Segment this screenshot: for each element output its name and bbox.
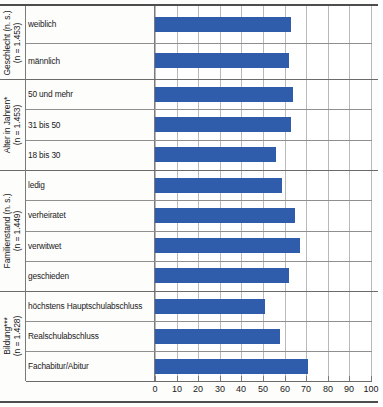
gridline-70 bbox=[306, 6, 307, 381]
plot-area bbox=[155, 6, 371, 381]
bar bbox=[155, 359, 308, 374]
group-name: Alter in Jahren* bbox=[2, 96, 12, 153]
category-label: verheiratet bbox=[28, 210, 66, 220]
x-tick-mark-20 bbox=[198, 376, 199, 381]
category-label: verwitwet bbox=[28, 241, 61, 251]
group-name: Bildung*** bbox=[2, 316, 12, 356]
group-sample-size: (n = 1.449) bbox=[12, 193, 22, 268]
bar bbox=[155, 329, 280, 344]
group-name: Familienstand (n. s.) bbox=[2, 193, 12, 268]
x-tick-mark-10 bbox=[177, 376, 178, 381]
category-label: Fachabitur/Abitur bbox=[28, 361, 89, 371]
x-axis-line bbox=[26, 381, 372, 382]
row-separator bbox=[26, 43, 372, 44]
x-tick-mark-80 bbox=[328, 376, 329, 381]
bar bbox=[155, 268, 289, 283]
category-label: 18 bis 30 bbox=[28, 150, 60, 160]
category-label: höchstens Hauptschulabschluss bbox=[28, 301, 142, 311]
x-tick-mark-90 bbox=[349, 376, 350, 381]
bar bbox=[155, 208, 295, 223]
bar bbox=[155, 178, 282, 193]
row-separator bbox=[26, 140, 372, 141]
row-separator bbox=[26, 109, 372, 110]
x-tick-mark-70 bbox=[306, 376, 307, 381]
group-separator bbox=[0, 170, 378, 171]
gridline-90 bbox=[349, 6, 350, 381]
category-label: Realschulabschluss bbox=[28, 331, 99, 341]
group-name: Geschlecht (n. s.) bbox=[2, 10, 12, 75]
bar bbox=[155, 17, 291, 32]
gridline-80 bbox=[328, 6, 329, 381]
row-separator bbox=[26, 321, 372, 322]
chart-bottom-border bbox=[0, 401, 378, 403]
x-tick-mark-60 bbox=[285, 376, 286, 381]
row-separator bbox=[26, 351, 372, 352]
category-label: 50 und mehr bbox=[28, 89, 73, 99]
row-separator bbox=[26, 231, 372, 232]
bar bbox=[155, 299, 265, 314]
category-label: männlich bbox=[28, 56, 60, 66]
x-tick-label: 20 bbox=[186, 384, 210, 395]
group-separator bbox=[0, 79, 378, 80]
x-tick-label: 100 bbox=[359, 384, 383, 395]
group-axis-label-3: Bildung***(n = 1.428) bbox=[0, 291, 24, 381]
x-tick-label: 0 bbox=[143, 384, 167, 395]
group-divider-rule-3 bbox=[25, 291, 26, 381]
group-sample-size: (n = 1.453) bbox=[12, 10, 22, 75]
group-divider-rule-1 bbox=[25, 79, 26, 170]
group-axis-label-2: Familienstand (n. s.)(n = 1.449) bbox=[0, 170, 24, 291]
bar bbox=[155, 117, 291, 132]
x-tick-label: 70 bbox=[294, 384, 318, 395]
x-tick-mark-40 bbox=[241, 376, 242, 381]
group-axis-label-1: Alter in Jahren*(n = 1.453) bbox=[0, 79, 24, 170]
x-tick-mark-30 bbox=[220, 376, 221, 381]
x-tick-mark-0 bbox=[155, 376, 156, 381]
group-sample-size: (n = 1.428) bbox=[12, 316, 22, 356]
category-label: geschieden bbox=[28, 271, 69, 281]
bar bbox=[155, 87, 293, 102]
category-label: ledig bbox=[28, 180, 45, 190]
bar bbox=[155, 53, 289, 68]
row-separator bbox=[26, 261, 372, 262]
group-separator bbox=[0, 291, 378, 292]
x-tick-mark-100 bbox=[371, 376, 372, 381]
category-label: weiblich bbox=[28, 19, 56, 29]
x-tick-label: 50 bbox=[251, 384, 275, 395]
gridline-100 bbox=[371, 6, 372, 381]
x-tick-label: 90 bbox=[337, 384, 361, 395]
bar bbox=[155, 238, 300, 253]
x-tick-label: 40 bbox=[229, 384, 253, 395]
group-axis-label-0: Geschlecht (n. s.)(n = 1.453) bbox=[0, 6, 24, 79]
group-sample-size: (n = 1.453) bbox=[12, 96, 22, 153]
category-label: 31 bis 50 bbox=[28, 120, 60, 130]
bar bbox=[155, 147, 276, 162]
row-separator bbox=[26, 200, 372, 201]
x-tick-mark-50 bbox=[263, 376, 264, 381]
